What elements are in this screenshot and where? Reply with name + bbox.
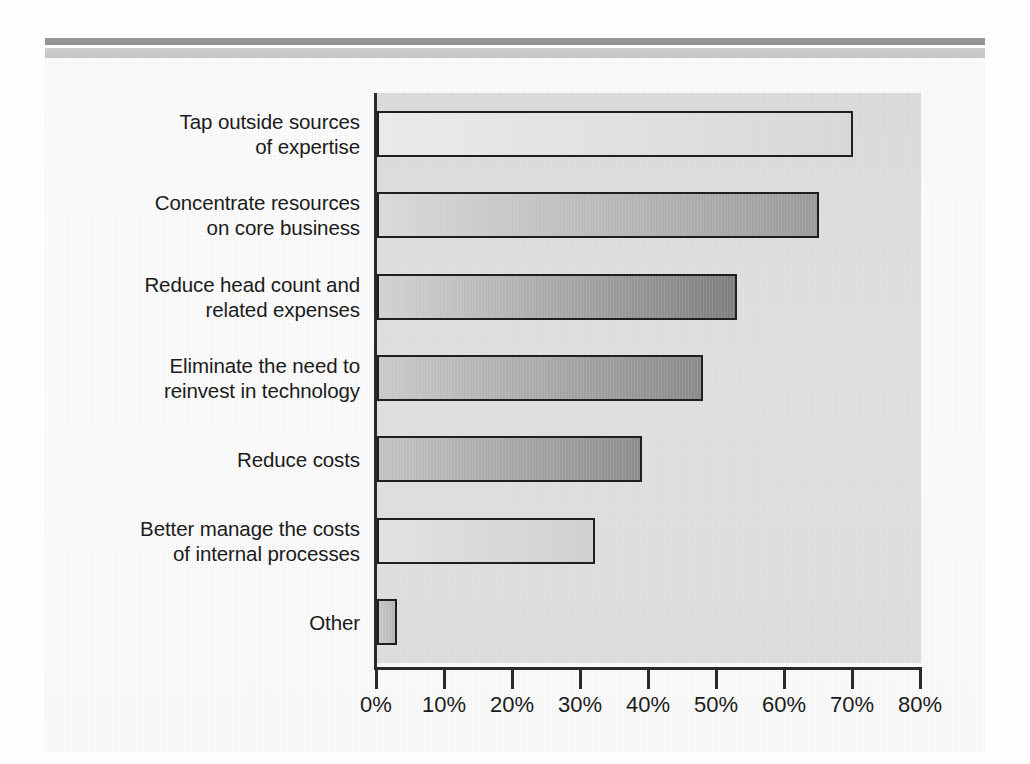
x-axis-ticks: 0%10%20%30%40%50%60%70%80% — [0, 670, 1030, 671]
bar-row: Better manage the costs of internal proc… — [0, 500, 1030, 581]
bar-row: Reduce head count and related expenses — [0, 256, 1030, 337]
bar — [377, 436, 642, 482]
category-label: Better manage the costs of internal proc… — [55, 516, 360, 566]
x-tick-label: 0% — [360, 692, 392, 718]
bar — [377, 111, 853, 157]
bar-track — [377, 500, 923, 581]
x-tick — [647, 670, 650, 689]
x-tick — [919, 670, 922, 689]
bar-track — [377, 337, 923, 418]
bar — [377, 192, 819, 238]
bar-track — [377, 93, 923, 174]
category-label: Reduce costs — [55, 447, 360, 472]
bar-row: Tap outside sources of expertise — [0, 93, 1030, 174]
x-tick — [511, 670, 514, 689]
x-tick-label: 30% — [558, 692, 602, 718]
bar-track — [377, 256, 923, 337]
category-label: Reduce head count and related expenses — [55, 272, 360, 322]
bar-track — [377, 174, 923, 255]
bar — [377, 355, 703, 401]
x-tick-label: 70% — [830, 692, 874, 718]
category-label: Tap outside sources of expertise — [55, 109, 360, 159]
bar — [377, 518, 595, 564]
x-tick — [851, 670, 854, 689]
bar — [377, 599, 397, 645]
bar-track — [377, 582, 923, 663]
x-tick — [715, 670, 718, 689]
top-rule-light — [45, 48, 985, 58]
x-tick-label: 50% — [694, 692, 738, 718]
x-tick-label: 20% — [490, 692, 534, 718]
top-rule-dark — [45, 38, 985, 45]
x-tick — [375, 670, 378, 689]
chart-page: Tap outside sources of expertiseConcentr… — [0, 0, 1030, 764]
x-tick — [783, 670, 786, 689]
category-label: Concentrate resources on core business — [55, 190, 360, 240]
bar-row: Eliminate the need to reinvest in techno… — [0, 337, 1030, 418]
bar-track — [377, 419, 923, 500]
x-tick-label: 80% — [898, 692, 942, 718]
bar-rows: Tap outside sources of expertiseConcentr… — [0, 93, 1030, 663]
category-label: Other — [55, 610, 360, 635]
x-tick — [443, 670, 446, 689]
x-tick-label: 60% — [762, 692, 806, 718]
x-tick-label: 40% — [626, 692, 670, 718]
bar-row: Concentrate resources on core business — [0, 174, 1030, 255]
bar-row: Other — [0, 582, 1030, 663]
bar-row: Reduce costs — [0, 419, 1030, 500]
category-label: Eliminate the need to reinvest in techno… — [55, 353, 360, 403]
x-tick-label: 10% — [422, 692, 466, 718]
x-tick — [579, 670, 582, 689]
bar — [377, 274, 737, 320]
